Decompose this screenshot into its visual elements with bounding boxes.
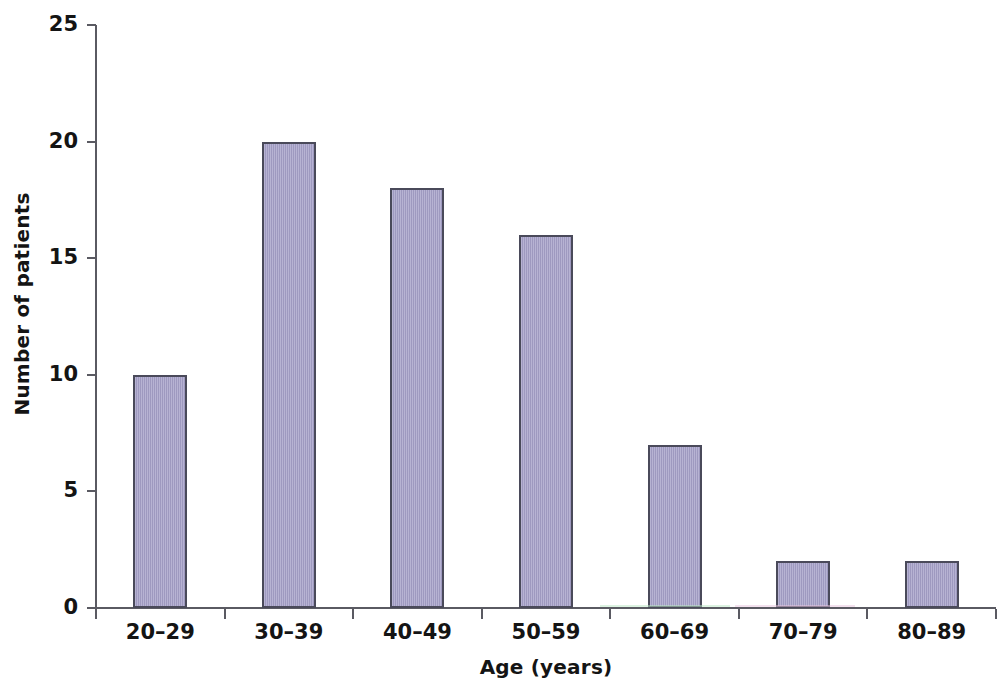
y-axis-tick-label: 15	[18, 247, 78, 268]
y-axis-tick-label: 0	[18, 597, 78, 618]
bar-chart: Number of patients 051015202520–2930–394…	[0, 0, 1008, 694]
x-axis-tick-label: 70–79	[739, 621, 867, 644]
x-axis-tick	[738, 609, 740, 619]
y-axis-tick	[87, 24, 96, 26]
x-axis-tick	[95, 609, 97, 619]
bar	[262, 142, 316, 608]
x-axis-tick-label: 40–49	[353, 621, 481, 644]
x-axis-tick-label: 50–59	[482, 621, 610, 644]
y-axis-tick-label: 20	[18, 131, 78, 152]
x-axis-tick	[224, 609, 226, 619]
x-axis-tick	[995, 609, 997, 619]
x-axis-tick-label: 80–89	[868, 621, 996, 644]
bar	[905, 561, 959, 608]
y-axis-tick-label: 5	[18, 480, 78, 501]
x-axis-tick	[866, 609, 868, 619]
bar	[519, 235, 573, 608]
bar	[133, 375, 187, 608]
y-axis-title: Number of patients	[0, 0, 44, 608]
x-axis-tick	[609, 609, 611, 619]
y-axis-tick	[87, 141, 96, 143]
x-axis-tick-label: 20–29	[96, 621, 224, 644]
baseline-artifact	[735, 605, 855, 607]
y-axis-tick	[87, 374, 96, 376]
y-axis-tick	[87, 490, 96, 492]
bar	[648, 445, 702, 608]
bar	[390, 188, 444, 608]
baseline-artifact	[600, 605, 730, 607]
bar	[776, 561, 830, 608]
x-axis-title: Age (years)	[96, 655, 996, 679]
y-axis-tick	[87, 257, 96, 259]
x-axis-tick	[481, 609, 483, 619]
y-axis-line	[95, 25, 97, 609]
x-axis-tick	[352, 609, 354, 619]
x-axis-tick-label: 30–39	[225, 621, 353, 644]
y-axis-tick-label: 10	[18, 364, 78, 385]
x-axis-tick-label: 60–69	[611, 621, 739, 644]
y-axis-tick-label: 25	[18, 14, 78, 35]
